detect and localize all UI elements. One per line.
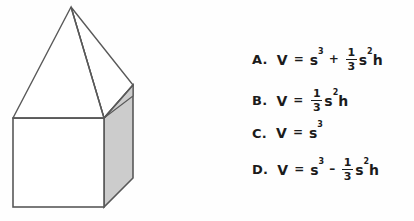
h-variable: h xyxy=(338,93,348,109)
s-squared-h-term: s2h xyxy=(355,162,379,178)
s-base: s xyxy=(310,52,318,68)
s-exponent-2: 2 xyxy=(364,157,370,166)
s-base-2: s xyxy=(324,93,332,109)
fraction-numerator: 1 xyxy=(313,88,321,100)
answer-choice-d-expression: V = s3 – 1 3 s2h xyxy=(277,157,379,182)
answer-choice-c-expression: V = s3 xyxy=(276,125,323,141)
h-variable: h xyxy=(373,52,383,68)
answer-choice-b[interactable]: B. V = 1 3 s2h xyxy=(252,88,348,113)
s-cubed-term: s3 xyxy=(310,162,324,178)
s-exponent: 3 xyxy=(319,157,325,166)
volume-variable: V xyxy=(276,125,287,141)
minus-operator: – xyxy=(329,162,335,176)
h-variable: h xyxy=(369,162,379,178)
fraction-numerator: 1 xyxy=(347,47,355,59)
s-base-2: s xyxy=(355,162,363,178)
equals-sign: = xyxy=(294,52,304,66)
s-base: s xyxy=(310,162,318,178)
question-figure xyxy=(0,0,207,221)
s-squared-h-term: s2h xyxy=(324,93,348,109)
one-third-fraction: 1 3 xyxy=(311,88,322,113)
equals-sign: = xyxy=(293,93,303,107)
fraction-numerator: 1 xyxy=(344,157,352,169)
volume-variable: V xyxy=(277,52,288,68)
answer-choice-a-expression: V = s3 + 1 3 s2h xyxy=(277,47,383,72)
answer-choice-a[interactable]: A. V = s3 + 1 3 s2h xyxy=(252,47,383,72)
s-exponent: 3 xyxy=(318,47,324,56)
answer-choice-c[interactable]: C. V = s3 xyxy=(252,125,323,141)
s-cubed-term: s3 xyxy=(309,125,323,141)
cube-front-face xyxy=(13,118,104,207)
one-third-fraction: 1 3 xyxy=(342,157,353,182)
answer-choice-b-expression: V = 1 3 s2h xyxy=(276,88,348,113)
volume-variable: V xyxy=(276,93,287,109)
solid-figure-diagram xyxy=(0,0,207,221)
s-squared-h-term: s2h xyxy=(359,52,383,68)
answer-choice-d-label: D. xyxy=(252,162,268,177)
answer-choice-b-label: B. xyxy=(252,93,267,108)
equals-sign: = xyxy=(293,125,303,139)
fraction-denominator: 3 xyxy=(344,170,352,182)
answer-choice-d[interactable]: D. V = s3 – 1 3 s2h xyxy=(252,157,379,182)
s-exponent: 3 xyxy=(317,120,323,129)
s-cubed-term: s3 xyxy=(310,52,324,68)
s-exponent-2: 2 xyxy=(367,47,373,56)
answer-choice-a-label: A. xyxy=(252,52,268,67)
fraction-denominator: 3 xyxy=(313,101,321,113)
equals-sign: = xyxy=(294,162,304,176)
s-base-2: s xyxy=(359,52,367,68)
one-third-fraction: 1 3 xyxy=(346,47,357,72)
fraction-denominator: 3 xyxy=(347,60,355,72)
s-exponent-2: 2 xyxy=(333,88,339,97)
answer-choices-list: A. V = s3 + 1 3 s2h B. V = 1 3 s2h xyxy=(252,0,414,221)
answer-choice-c-label: C. xyxy=(252,126,267,141)
volume-variable: V xyxy=(277,162,288,178)
plus-operator: + xyxy=(329,52,339,66)
